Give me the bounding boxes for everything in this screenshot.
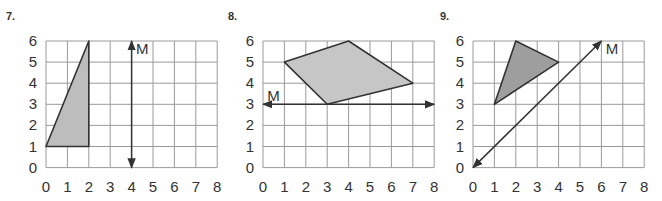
- x-tick-label: 8: [430, 178, 438, 195]
- x-tick-label: 6: [597, 178, 605, 195]
- problem-number: 9.: [440, 10, 449, 22]
- x-tick-label: 3: [533, 178, 541, 195]
- x-tick-label: 0: [259, 178, 267, 195]
- mirror-line-label: M: [267, 87, 280, 104]
- problem-number: 8.: [228, 10, 237, 22]
- quadrilateral-shape: [284, 41, 412, 104]
- x-tick-label: 6: [387, 178, 395, 195]
- x-tick-label: 1: [490, 178, 498, 195]
- y-tick-label: 5: [456, 53, 464, 70]
- mirror-line-label: M: [136, 40, 149, 57]
- y-tick-label: 4: [456, 74, 464, 91]
- y-tick-label: 3: [29, 95, 37, 112]
- x-tick-label: 0: [42, 178, 50, 195]
- problem-9: 9.0123456780123456M: [440, 10, 648, 195]
- y-tick-label: 1: [29, 138, 37, 155]
- triangle-shape: [494, 41, 558, 104]
- y-tick-label: 6: [456, 32, 464, 49]
- x-tick-label: 3: [323, 178, 331, 195]
- coordinate-grid: [473, 41, 644, 168]
- y-tick-label: 0: [29, 159, 37, 176]
- y-tick-label: 2: [29, 116, 37, 133]
- x-tick-label: 1: [63, 178, 71, 195]
- mirror-line-label: M: [606, 40, 619, 57]
- x-tick-label: 5: [149, 178, 157, 195]
- y-tick-label: 6: [246, 32, 254, 49]
- x-tick-label: 7: [619, 178, 627, 195]
- x-tick-label: 2: [302, 178, 310, 195]
- x-tick-label: 4: [554, 178, 562, 195]
- y-tick-label: 3: [246, 95, 254, 112]
- y-tick-label: 1: [456, 138, 464, 155]
- x-tick-label: 8: [640, 178, 648, 195]
- x-tick-label: 7: [192, 178, 200, 195]
- y-tick-label: 2: [246, 116, 254, 133]
- problem-7: 7.0123456780123456M: [6, 10, 221, 195]
- y-tick-label: 1: [246, 138, 254, 155]
- y-tick-label: 0: [456, 159, 464, 176]
- x-tick-label: 0: [469, 178, 477, 195]
- y-tick-label: 2: [456, 116, 464, 133]
- x-tick-label: 1: [280, 178, 288, 195]
- x-tick-label: 5: [366, 178, 374, 195]
- x-tick-label: 5: [576, 178, 584, 195]
- x-tick-label: 2: [512, 178, 520, 195]
- y-tick-label: 3: [456, 95, 464, 112]
- reflection-worksheet: 7.0123456780123456M8.0123456780123456M9.…: [0, 0, 662, 201]
- y-tick-label: 0: [246, 159, 254, 176]
- y-tick-label: 4: [246, 74, 254, 91]
- x-tick-label: 3: [106, 178, 114, 195]
- x-tick-label: 6: [170, 178, 178, 195]
- x-tick-label: 7: [409, 178, 417, 195]
- x-tick-label: 2: [85, 178, 93, 195]
- y-tick-label: 5: [29, 53, 37, 70]
- y-tick-label: 5: [246, 53, 254, 70]
- problem-8: 8.0123456780123456M: [228, 10, 438, 195]
- y-tick-label: 4: [29, 74, 37, 91]
- y-tick-label: 6: [29, 32, 37, 49]
- x-tick-label: 4: [127, 178, 135, 195]
- problem-number: 7.: [6, 10, 15, 22]
- x-tick-label: 4: [344, 178, 352, 195]
- x-tick-label: 8: [213, 178, 221, 195]
